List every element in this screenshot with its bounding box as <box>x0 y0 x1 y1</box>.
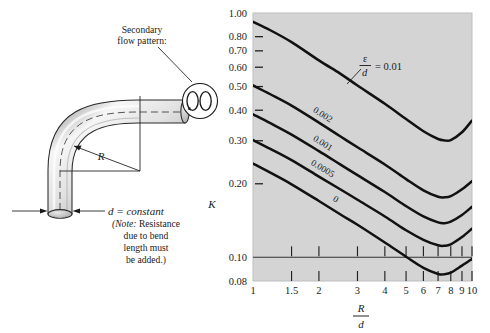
y-tick-label-0.50: 0.50 <box>229 81 247 92</box>
x-tick-label-4: 4 <box>382 285 388 296</box>
x-axis-label: R d <box>353 302 369 330</box>
x-tick-label-3: 3 <box>355 285 360 296</box>
y-tick-label-0.20: 0.20 <box>229 178 247 189</box>
x-tick-label-1: 1 <box>250 285 255 296</box>
figure-root: R d = constant Secondary flow pattern: <box>0 0 490 333</box>
y-tick-label-0.30: 0.30 <box>229 135 247 146</box>
note-line-2: due to bend <box>124 230 169 241</box>
secondary-flow-leader-line <box>158 47 192 82</box>
legend-numerator: ε <box>363 53 368 64</box>
x-tick-label-8: 8 <box>448 285 453 296</box>
x-axis-label-numerator: R <box>357 302 365 314</box>
x-axis-tick-labels: 11.52345678910 <box>250 285 477 296</box>
pipe-body <box>48 100 189 219</box>
x-tick-label-5: 5 <box>403 285 408 296</box>
y-tick-label-0.40: 0.40 <box>229 105 247 116</box>
figure-svg: R d = constant Secondary flow pattern: <box>0 0 490 333</box>
pipe-inlet-face <box>48 210 72 219</box>
diameter-label: d = constant <box>108 205 165 217</box>
y-axis-label: K <box>207 198 216 210</box>
secondary-flow-label-line2: flow pattern: <box>117 35 166 46</box>
x-tick-label-9: 9 <box>459 285 464 296</box>
y-tick-label-0.70: 0.70 <box>229 45 247 56</box>
y-tick-label-0.80: 0.80 <box>229 31 247 42</box>
note-line-1: (Note: Resistance <box>112 218 180 230</box>
pipe-bend-diagram: R d = constant Secondary flow pattern: <box>12 24 218 266</box>
x-tick-label-2: 2 <box>316 285 321 296</box>
x-tick-label-7: 7 <box>435 285 440 296</box>
note-italic-word: (Note: <box>112 218 137 230</box>
x-tick-label-10: 10 <box>467 285 478 296</box>
y-tick-label-1.00: 1.00 <box>229 8 247 19</box>
radius-label: R <box>97 150 105 162</box>
note-line-4: be added.) <box>126 254 166 266</box>
radius-arrow-line <box>74 146 140 171</box>
legend-equals-value: = 0.01 <box>375 61 402 72</box>
chart: 0.080.100.200.300.400.500.600.700.801.00… <box>207 8 477 330</box>
diameter-arrowhead-right <box>73 208 81 213</box>
note-line-1-rest: Resistance <box>137 218 180 229</box>
y-tick-label-0.10: 0.10 <box>229 252 247 263</box>
x-tick-label-6: 6 <box>421 285 426 296</box>
y-tick-label-0.60: 0.60 <box>229 62 247 73</box>
secondary-flow-pattern-icon <box>183 84 218 119</box>
note-line-3: length must <box>123 242 168 253</box>
y-tick-label-0.08: 0.08 <box>229 276 247 287</box>
y-axis-tick-labels: 0.080.100.200.300.400.500.600.700.801.00 <box>229 8 247 287</box>
diameter-arrowhead-left <box>40 208 48 213</box>
secondary-flow-label-line1: Secondary <box>122 24 163 35</box>
diameter-label-text: d = constant <box>108 205 165 217</box>
x-tick-label-1.5: 1.5 <box>285 285 298 296</box>
x-axis-label-denominator: d <box>358 318 364 330</box>
legend-denominator: d <box>362 67 368 78</box>
